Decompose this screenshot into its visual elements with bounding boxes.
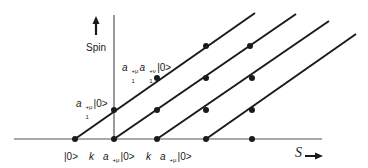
k-sub: μ [152, 165, 155, 168]
spin-label: Spin [86, 43, 106, 53]
op-sup: +μ [132, 66, 139, 76]
label-a1-state: a+μ1|0> [76, 99, 108, 109]
state-dot [203, 107, 209, 113]
state-dot [154, 136, 160, 142]
k: k [89, 151, 94, 162]
op-sub: 1 [86, 112, 89, 122]
trajectory-line-4 [206, 34, 356, 139]
ket: |0> [157, 62, 171, 73]
op-a: a [76, 98, 82, 109]
s-arrow-icon [305, 153, 323, 160]
ket: |0> [121, 151, 135, 162]
label-k-a1-state: kμa+μ1|0> [89, 152, 135, 162]
state-dot [111, 107, 117, 113]
op2-a: a [140, 62, 146, 73]
state-dot [203, 136, 209, 142]
state-dot [249, 136, 255, 142]
state-dot [247, 43, 253, 49]
trajectory-line-1 [75, 13, 255, 139]
op-a: a [160, 151, 166, 162]
op-sup: +μ [86, 102, 93, 112]
op-sub: 2 [170, 165, 173, 168]
k-sub: μ [95, 165, 98, 168]
state-dot [111, 136, 117, 142]
state-dot [203, 75, 209, 81]
state-dot [72, 136, 78, 142]
op2-sup: +ν [149, 66, 156, 76]
k: k [146, 151, 151, 162]
label-a1-a1-state: a+μ1a+ν1|0> [122, 63, 171, 73]
state-dot [203, 43, 209, 49]
state-dot [249, 107, 255, 113]
ket: |0> [94, 98, 108, 109]
op-sub: 1 [113, 165, 116, 168]
op-a: a [103, 151, 109, 162]
spin-arrow-icon [93, 16, 100, 35]
op2-sub: 1 [149, 76, 152, 86]
label-vacuum-state: |0> [64, 152, 78, 162]
label-k-a2-state: kμa+μ2|0> [146, 152, 192, 162]
op-sub: 1 [132, 76, 135, 86]
ket: |0> [178, 151, 192, 162]
regge-trajectory-diagram [0, 0, 368, 168]
state-dot [154, 107, 160, 113]
state-dot [249, 75, 255, 81]
trajectories [75, 13, 356, 139]
op-a: a [122, 62, 128, 73]
op-sup: +μ [170, 155, 177, 165]
trajectory-line-3 [157, 21, 329, 139]
s-axis-label: S [295, 148, 302, 158]
state-dots [72, 43, 255, 142]
op-sup: +μ [113, 155, 120, 165]
